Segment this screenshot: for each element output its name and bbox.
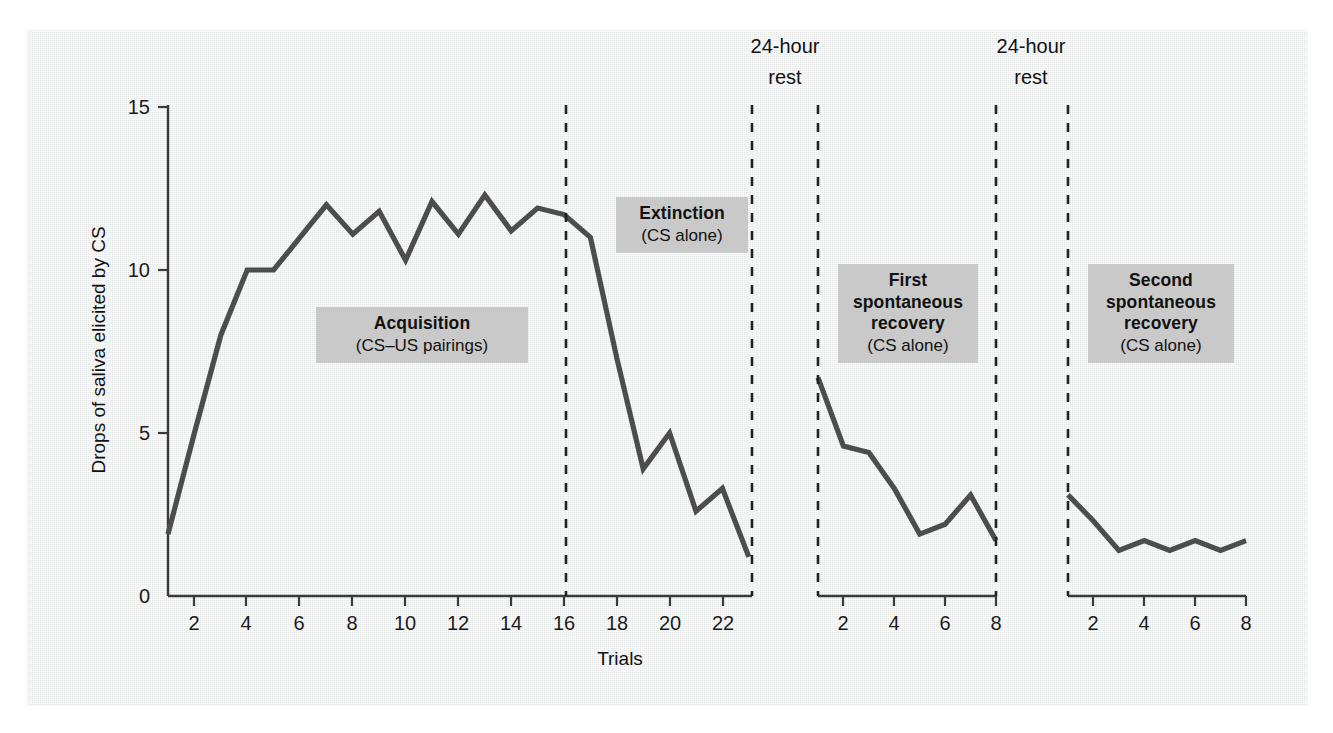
- annotation-acquisition-title: Acquisition: [326, 313, 518, 335]
- y-axis-title: Drops of saliva elicited by CS: [88, 226, 109, 473]
- annotation-extinction-subtitle: (CS alone): [626, 225, 738, 246]
- panel1-x-label-2: 2: [188, 612, 199, 634]
- annotation-acquisition: Acquisition (CS–US pairings): [316, 307, 528, 363]
- panel2-x-label-8: 8: [990, 612, 1001, 634]
- panel1-x-label-22: 22: [712, 612, 734, 634]
- data-line-second-spontaneous-recovery: [1068, 495, 1246, 550]
- panel3-x-label-4: 4: [1138, 612, 1149, 634]
- data-line-first-spontaneous-recovery: [818, 378, 996, 541]
- annotation-first-recovery-line2: spontaneous: [848, 292, 968, 314]
- annotation-first-recovery-line3: recovery: [848, 313, 968, 335]
- annotation-extinction-title: Extinction: [626, 203, 738, 225]
- y-tick-label-5: 5: [139, 422, 150, 444]
- rest-label-1-line1: 24-hour: [751, 35, 820, 57]
- panel2-axes: [818, 596, 996, 606]
- panel1-x-label-12: 12: [447, 612, 469, 634]
- rest-label-1: 24-hour rest: [751, 35, 820, 88]
- rest-label-2-line1: 24-hour: [997, 35, 1066, 57]
- annotation-acquisition-subtitle: (CS–US pairings): [326, 335, 518, 356]
- panel2-x-label-2: 2: [837, 612, 848, 634]
- figure-root: 15 10 5 0 2 4 6 8 10 12 14 16 18 20 22 D…: [0, 0, 1333, 733]
- panel3-x-label-8: 8: [1240, 612, 1251, 634]
- annotation-second-recovery: Second spontaneous recovery (CS alone): [1088, 264, 1234, 363]
- panel1-x-label-4: 4: [240, 612, 251, 634]
- panel1-x-label-16: 16: [553, 612, 575, 634]
- annotation-first-recovery-subtitle: (CS alone): [848, 335, 968, 356]
- panel2-x-label-6: 6: [939, 612, 950, 634]
- panel3-x-label-2: 2: [1087, 612, 1098, 634]
- panel1-x-ticks: [194, 596, 723, 606]
- annotation-first-recovery-line1: First: [848, 270, 968, 292]
- y-tick-label-15: 15: [128, 96, 150, 118]
- y-tick-label-0: 0: [139, 585, 150, 607]
- panel1-x-label-6: 6: [293, 612, 304, 634]
- panel1-x-label-20: 20: [659, 612, 681, 634]
- rest-label-2: 24-hour rest: [997, 35, 1066, 88]
- panel1-x-label-18: 18: [606, 612, 628, 634]
- x-axis-title: Trials: [597, 648, 643, 669]
- panel3-axes: [1068, 596, 1246, 606]
- annotation-extinction: Extinction (CS alone): [616, 197, 748, 253]
- panel3-x-label-6: 6: [1189, 612, 1200, 634]
- chart-svg: 15 10 5 0 2 4 6 8 10 12 14 16 18 20 22 D…: [0, 0, 1333, 733]
- panel1-x-label-10: 10: [394, 612, 416, 634]
- panel1-x-label-8: 8: [346, 612, 357, 634]
- annotation-second-recovery-line2: spontaneous: [1098, 292, 1224, 314]
- annotation-second-recovery-line3: recovery: [1098, 313, 1224, 335]
- rest-label-1-line2: rest: [768, 66, 802, 88]
- panel2-x-label-4: 4: [888, 612, 899, 634]
- annotation-first-recovery: First spontaneous recovery (CS alone): [838, 264, 978, 363]
- rest-label-2-line2: rest: [1014, 66, 1048, 88]
- y-tick-label-10: 10: [128, 259, 150, 281]
- annotation-second-recovery-line1: Second: [1098, 270, 1224, 292]
- panel1-x-label-14: 14: [500, 612, 522, 634]
- annotation-second-recovery-subtitle: (CS alone): [1098, 335, 1224, 356]
